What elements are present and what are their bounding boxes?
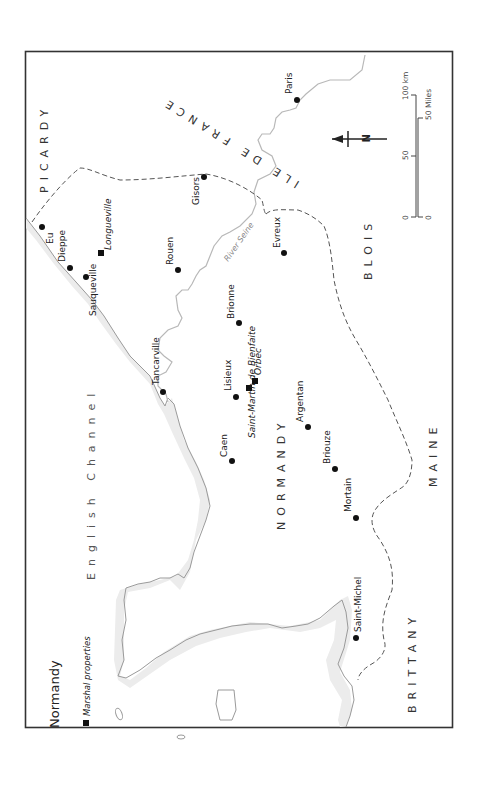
- north-arrow-icon: [332, 135, 343, 143]
- region-ile-de-france: ILE DE FRANCE: [158, 94, 301, 190]
- town-label: Tancarville: [151, 337, 161, 386]
- town-marker-icon: [229, 458, 235, 464]
- town-marker-icon: [353, 635, 359, 641]
- town-label: Dieppe: [57, 230, 67, 262]
- town-label: Gisors: [191, 177, 201, 205]
- scale-mi-0: 0: [424, 215, 433, 220]
- island-jersey: [216, 690, 236, 720]
- town-label: Saint-Michel: [353, 577, 363, 632]
- town-label: Argentan: [295, 381, 305, 422]
- town-label: Evreux: [272, 216, 282, 248]
- town-label: Rouen: [165, 237, 175, 265]
- scale-bar: 0 50 100 km 0 50 Miles: [401, 72, 433, 220]
- town-marker-icon: [332, 466, 338, 472]
- town-label: Orbec: [253, 348, 263, 375]
- town-label: Longueville: [103, 198, 113, 250]
- town-marker-icon: [39, 224, 45, 230]
- sea-english-channel: English Channel: [85, 387, 98, 580]
- normandy-map: PICARDY ILE DE FRANCE NORMANDY BLOIS MAI…: [0, 0, 478, 802]
- property-marker-icon: [252, 378, 258, 384]
- town-label: Sauqueville: [88, 263, 98, 316]
- island: [114, 707, 124, 720]
- scale-mi-50: 50 Miles: [424, 89, 433, 120]
- town-label: Lisieux: [223, 359, 233, 391]
- region-maine: MAINE: [427, 422, 440, 487]
- town-label: Eu: [45, 233, 55, 244]
- coast-shading: [26, 218, 352, 727]
- region-normandy: NORMANDY: [275, 418, 288, 530]
- scale-km-0: 0: [401, 215, 410, 220]
- town-marker-icon: [281, 250, 287, 256]
- town-label: Caen: [219, 434, 229, 457]
- region-brittany: BRITTANY: [406, 612, 419, 713]
- legend-label: Marshal properties: [82, 636, 92, 716]
- town-label: Paris: [284, 72, 294, 94]
- town-label: Brionne: [226, 284, 236, 319]
- town-marker-icon: [175, 267, 181, 273]
- map-title: Normandy: [47, 660, 62, 728]
- town-marker-icon: [67, 265, 73, 271]
- town-marker-icon: [305, 424, 311, 430]
- legend-square-icon: [83, 720, 89, 726]
- scale-km-100: 100 km: [401, 72, 410, 100]
- town-marker-icon: [233, 394, 239, 400]
- town-marker-icon: [160, 389, 166, 395]
- border-picardy: [32, 168, 266, 222]
- region-picardy: PICARDY: [38, 104, 51, 193]
- compass-n-label: N: [360, 134, 371, 142]
- town-marker-icon: [236, 320, 242, 326]
- town-marker-icon: [353, 515, 359, 521]
- coastline: [26, 218, 354, 727]
- town-marker-icon: [294, 97, 300, 103]
- scale-km-50: 50: [401, 150, 410, 160]
- island: [177, 735, 185, 739]
- town-label: Mortain: [343, 478, 353, 512]
- region-blois: BLOIS: [362, 218, 375, 280]
- town-marker-icon: [201, 174, 207, 180]
- town-label: Briouze: [322, 430, 332, 464]
- compass: N: [332, 131, 387, 147]
